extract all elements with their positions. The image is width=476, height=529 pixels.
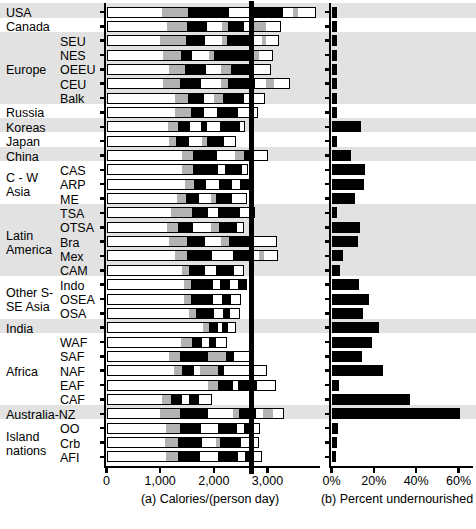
panel-a-y-tick [100, 212, 105, 215]
undernourished-bar [332, 50, 337, 61]
panel-b-y-tick [325, 369, 330, 372]
undernourished-bar [332, 437, 337, 448]
undernourished-bar [332, 279, 360, 290]
undernourished-bar [332, 394, 410, 405]
panel-a-y-tick [100, 341, 105, 344]
panel-a-y-tick [100, 226, 105, 229]
panel-a-y-tick [100, 384, 105, 387]
panel-a-y-tick [100, 11, 105, 14]
panel-a-y-tick [100, 456, 105, 459]
undernourished-bar [332, 35, 337, 46]
panel-b-y-tick [325, 11, 330, 14]
panel-a-y-tick [100, 413, 105, 416]
panel-a-y-tick [100, 82, 105, 85]
panel-b-y-tick [325, 212, 330, 215]
panel-b-y-tick [325, 283, 330, 286]
panel-b-x-tick [415, 468, 417, 473]
panel-b-y-tick [325, 126, 330, 129]
panel-a-y-tick [100, 140, 105, 143]
panel-a-y-tick [100, 68, 105, 71]
undernourished-bar [332, 107, 337, 118]
panel-b-x-tick [457, 468, 459, 473]
panel-a-x-tick [105, 468, 107, 473]
undernourished-bar [332, 265, 340, 276]
undernourished-bar [332, 121, 362, 132]
panel-b-y-tick [325, 82, 330, 85]
chart-figure: USACanadaEuropeSEUNESOEEUCEUBalkRussiaKo… [0, 0, 476, 529]
undernourished-bar [332, 351, 363, 362]
undernourished-bar [332, 179, 365, 190]
panel-a-y-tick [100, 326, 105, 329]
panel-a-x-tick [159, 468, 161, 473]
panel-b-caption: (b) Percent undernourished [318, 492, 476, 506]
panel-a-y-tick [100, 111, 105, 114]
panel-b-y-tick [325, 441, 330, 444]
panel-b-y-tick [325, 326, 330, 329]
panel-b-y-tick [325, 183, 330, 186]
panel-a-y-tick [100, 355, 105, 358]
panel-a-y-tick [100, 312, 105, 315]
panel-b-y-tick [325, 298, 330, 301]
undernourished-bar [332, 365, 384, 376]
panel-b-y-axis [329, 3, 332, 466]
panel-a-caption: (a) Calories/(person day) [100, 492, 320, 506]
panel-a-y-tick [100, 398, 105, 401]
panel-b-y-tick [325, 398, 330, 401]
undernourished-bar [332, 451, 336, 462]
panel-b-y-tick [325, 169, 330, 172]
panel-a-y-tick [100, 427, 105, 430]
undernourished-bar [332, 193, 355, 204]
panel-a-y-tick [100, 169, 105, 172]
undernourished-bar [332, 308, 364, 319]
panel-a-y-tick [100, 441, 105, 444]
panel-a-y-axis [104, 3, 107, 466]
undernourished-bar [332, 408, 460, 419]
panel-b-x-tick-label: 60% [431, 474, 476, 488]
panel-a-y-tick [100, 54, 105, 57]
panel-b-y-tick [325, 97, 330, 100]
panel-a-y-tick [100, 97, 105, 100]
panel-b-x-tick [373, 468, 375, 473]
panel-a-y-tick [100, 255, 105, 258]
undernourished-bar [332, 294, 369, 305]
panel-a-y-tick [100, 183, 105, 186]
undernourished-bar [332, 93, 337, 104]
panel-b-y-tick [325, 68, 330, 71]
panel-b-y-tick [325, 54, 330, 57]
panel-b-y-tick [325, 341, 330, 344]
undernourished-bar [332, 222, 361, 233]
undernourished-bar [332, 380, 339, 391]
panel-a-y-tick [100, 39, 105, 42]
panel-a-y-tick [100, 197, 105, 200]
panel-b-y-tick [325, 25, 330, 28]
panel-b-y-tick [325, 384, 330, 387]
panel-b-y-tick [325, 312, 330, 315]
panel-b-y-tick [325, 226, 330, 229]
panel-b-y-tick [325, 140, 330, 143]
calorie-reference-line [249, 1, 254, 474]
undernourished-bar [332, 423, 338, 434]
undernourished-bar [332, 150, 351, 161]
undernourished-bar [332, 250, 344, 261]
panel-b-y-tick [325, 413, 330, 416]
panel-a-y-tick [100, 240, 105, 243]
panel-b-y-tick [325, 111, 330, 114]
panel-b-y-tick [325, 197, 330, 200]
panel-a-x-tick [266, 468, 268, 473]
panel-a-y-tick [100, 25, 105, 28]
panel-b-undernourished [0, 0, 476, 529]
undernourished-bar [332, 236, 358, 247]
panel-a-y-tick [100, 298, 105, 301]
undernourished-bar [332, 21, 337, 32]
undernourished-bar [332, 322, 380, 333]
undernourished-bar [332, 78, 337, 89]
undernourished-bar [332, 337, 372, 348]
panel-b-y-tick [325, 456, 330, 459]
panel-b-x-axis [329, 466, 474, 468]
panel-b-y-tick [325, 39, 330, 42]
panel-a-y-tick [100, 126, 105, 129]
panel-b-y-tick [325, 427, 330, 430]
panel-b-y-tick [325, 269, 330, 272]
undernourished-bar [332, 64, 337, 75]
panel-b-y-tick [325, 154, 330, 157]
